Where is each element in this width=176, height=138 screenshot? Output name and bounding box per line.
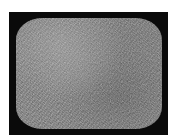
tv-frame (9, 12, 168, 135)
static-noise-screen (16, 18, 162, 129)
noise-texture (16, 18, 162, 129)
